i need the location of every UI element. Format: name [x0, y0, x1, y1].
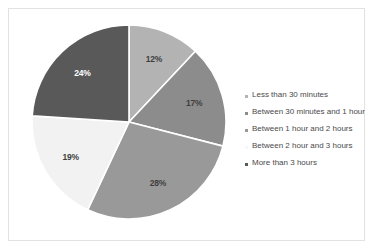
- legend-marker-icon: [245, 95, 248, 98]
- legend-marker-icon: [245, 163, 248, 166]
- pie-slice-label: 24%: [74, 68, 91, 78]
- pie-svg: 12%17%28%19%24%: [31, 23, 227, 221]
- pie-slice-label: 28%: [150, 178, 167, 188]
- pie-slice-label: 19%: [62, 152, 79, 162]
- legend-item-label: Less than 30 minutes: [252, 91, 328, 99]
- pie-slice-label: 17%: [186, 98, 203, 108]
- legend-item[interactable]: Between 1 hour and 2 hours: [245, 125, 365, 133]
- legend-marker-icon: [245, 112, 248, 115]
- legend-marker-icon: [245, 129, 248, 132]
- legend-item-label: More than 3 hours: [252, 159, 317, 167]
- chart-card: 12%17%28%19%24% Less than 30 minutesBetw…: [8, 8, 365, 241]
- pie-chart: 12%17%28%19%24%: [31, 23, 227, 221]
- legend-item[interactable]: Between 30 minutes and 1 hour: [245, 108, 365, 116]
- pie-chart-plot-area: 12%17%28%19%24% Less than 30 minutesBetw…: [9, 9, 364, 240]
- legend-marker-icon: [245, 146, 248, 149]
- pie-slices: [32, 25, 226, 219]
- legend-item-label: Between 30 minutes and 1 hour: [252, 108, 365, 116]
- legend: Less than 30 minutesBetween 30 minutes a…: [245, 91, 365, 175]
- pie-slice-label: 12%: [146, 54, 163, 64]
- legend-item-label: Between 2 hour and 3 hours: [252, 142, 353, 150]
- legend-item-label: Between 1 hour and 2 hours: [252, 125, 353, 133]
- legend-item[interactable]: More than 3 hours: [245, 159, 365, 167]
- legend-item[interactable]: Between 2 hour and 3 hours: [245, 142, 365, 150]
- legend-item[interactable]: Less than 30 minutes: [245, 91, 365, 99]
